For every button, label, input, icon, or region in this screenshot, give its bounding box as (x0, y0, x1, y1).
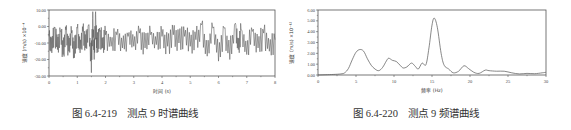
x-tick-label: 7 (246, 80, 249, 85)
y-tick-label: 10.00 (36, 8, 47, 13)
y-tick-label: -20.00 (34, 57, 46, 62)
x-tick-label: 25 (506, 79, 511, 84)
y-tick-label: -10.00 (34, 41, 46, 46)
x-tick-label: 4 (161, 80, 164, 85)
figure-caption: 图 6.4-220 测点 9 频谱曲线 (353, 105, 479, 120)
y-axis-title: 速度 (m/s) ×10⁻¹² (288, 21, 295, 63)
x-tick-label: 2 (104, 80, 106, 85)
y-tick-label: 2.00 (307, 51, 316, 56)
x-tick-label: 8 (274, 80, 277, 85)
x-tick-label: 15 (430, 79, 435, 84)
x-tick-label: 1 (76, 80, 78, 85)
frequency-spectrum-chart: 6.005.004.003.002.001.000.00051015202530… (285, 0, 571, 100)
data-series-line (318, 18, 546, 75)
x-tick-label: 10 (392, 79, 397, 84)
y-tick-label: 4.00 (307, 29, 316, 34)
time-history-chart: 10.000.00-10.00-20.00-30.00012345678时间 (… (0, 0, 285, 100)
x-axis-title: 时间 (s) (153, 88, 171, 95)
x-tick-label: 5 (355, 79, 358, 84)
x-tick-label: 6 (217, 80, 220, 85)
y-axis-title: 速度 (m/s) ×10⁻⁴ (21, 23, 28, 63)
y-tick-label: 5.00 (307, 18, 316, 23)
y-tick-label: -30.00 (34, 74, 46, 79)
frequency-spectrum-figure: 6.005.004.003.002.001.000.00051015202530… (285, 0, 571, 130)
data-series-line (49, 12, 275, 73)
y-tick-label: 0.00 (38, 24, 47, 29)
x-tick-label: 0 (317, 79, 320, 84)
y-tick-label: 0.00 (307, 73, 316, 78)
plot-frame (49, 10, 275, 76)
y-tick-label: 3.00 (307, 40, 316, 45)
y-tick-label: 1.00 (307, 62, 316, 67)
time-history-figure: 10.000.00-10.00-20.00-30.00012345678时间 (… (0, 0, 285, 130)
y-tick-label: 6.00 (307, 8, 316, 13)
figure-caption: 图 6.4-219 测点 9 时谱曲线 (72, 105, 198, 120)
x-tick-label: 5 (189, 80, 192, 85)
x-tick-label: 0 (48, 80, 51, 85)
x-tick-label: 30 (544, 79, 549, 84)
x-axis-title: 频率 (Hz) (421, 87, 443, 94)
x-tick-label: 20 (468, 79, 473, 84)
x-tick-label: 3 (133, 80, 136, 85)
plot-frame (318, 10, 546, 75)
